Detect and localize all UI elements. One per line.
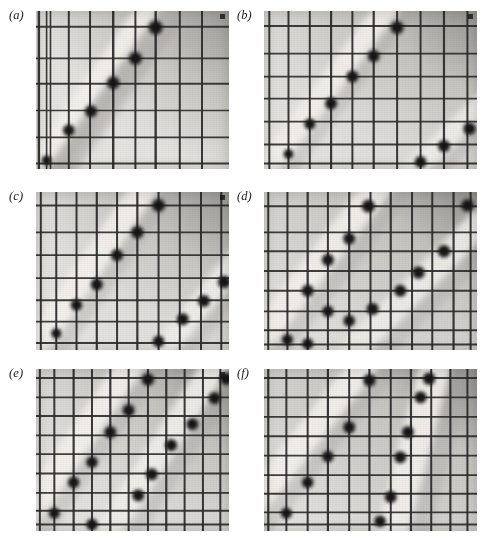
- panel-f: (f): [0, 0, 482, 544]
- panel-label-f: (f): [237, 366, 249, 381]
- panel-image-f: [264, 369, 477, 531]
- figure-plate: (a)(b)(c)(d)(e)(f): [0, 0, 482, 544]
